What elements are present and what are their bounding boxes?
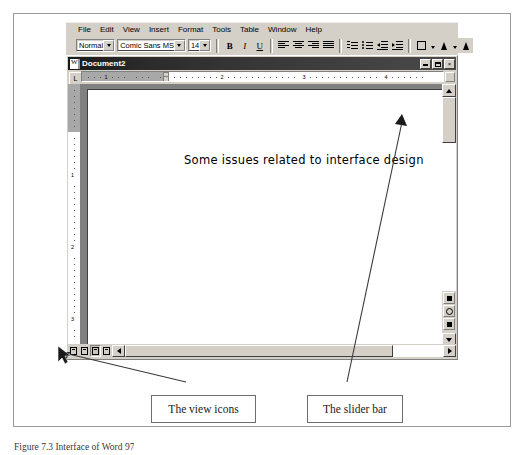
justify-button[interactable]: [321, 38, 336, 53]
ruler-scroll-button[interactable]: [445, 72, 455, 82]
document-title: Document2: [82, 59, 420, 68]
italic-button[interactable]: I: [237, 38, 252, 53]
ruler-strip[interactable]: 1 2: [81, 71, 444, 82]
callout-slider-bar: The slider bar: [307, 395, 403, 423]
scroll-left-button[interactable]: [112, 345, 125, 357]
callout-slider-bar-label: The slider bar: [323, 403, 387, 415]
online-layout-view-icon[interactable]: [79, 345, 90, 357]
double-down-arrow-icon: [447, 322, 452, 327]
horizontal-scrollbar-row: [68, 344, 456, 358]
document-work-area: Some issues related to interface design: [81, 84, 442, 346]
figure-frame: File Edit View Insert Format Tools Table…: [13, 13, 511, 427]
close-button[interactable]: ×: [444, 59, 455, 69]
justify-icon: [323, 41, 334, 50]
scroll-up-button[interactable]: [442, 84, 456, 97]
callout-view-icons: The view icons: [151, 395, 256, 423]
font-color-button[interactable]: [458, 38, 473, 53]
align-center-icon: [293, 41, 304, 50]
horizontal-scroll-thumb[interactable]: [125, 345, 393, 357]
document-page[interactable]: Some issues related to interface design: [87, 89, 442, 346]
font-combo-box[interactable]: Comic Sans MS: [117, 39, 186, 52]
word-document-icon: [70, 59, 80, 69]
ruler-number: 4: [384, 74, 387, 80]
menu-item-tools[interactable]: Tools: [212, 23, 236, 36]
borders-dropdown-arrow[interactable]: [429, 38, 436, 53]
horizontal-ruler[interactable]: L 1: [68, 70, 456, 84]
highlight-button[interactable]: [436, 38, 451, 53]
decrease-indent-icon: [377, 41, 388, 50]
bullets-button[interactable]: [360, 38, 375, 53]
toolbar-separator: [216, 39, 219, 53]
underline-button[interactable]: U: [252, 38, 267, 53]
chevron-down-icon[interactable]: [199, 40, 210, 51]
align-left-icon: [278, 41, 289, 50]
select-browse-object-button[interactable]: [443, 305, 455, 317]
menu-bar: File Edit View Insert Format Tools Table…: [66, 22, 458, 36]
menu-item-edit[interactable]: Edit: [100, 23, 119, 36]
menu-item-insert[interactable]: Insert: [149, 23, 174, 36]
previous-page-button[interactable]: [443, 292, 455, 304]
normal-view-icon[interactable]: [68, 345, 79, 357]
bulleted-list-icon: [362, 41, 373, 50]
scroll-right-button[interactable]: [443, 345, 456, 357]
minimize-button[interactable]: [420, 59, 431, 69]
document-body-text[interactable]: Some issues related to interface design: [184, 153, 424, 167]
font-color-icon: [463, 42, 469, 50]
tab-selector-icon[interactable]: L: [69, 72, 81, 84]
left-indent-marker[interactable]: [163, 76, 169, 82]
menu-item-window[interactable]: Window: [268, 23, 301, 36]
numbering-button[interactable]: [345, 38, 360, 53]
align-center-button[interactable]: [291, 38, 306, 53]
double-up-arrow-icon: [447, 296, 452, 301]
toolbar-separator: [339, 39, 342, 53]
word-application-window: File Edit View Insert Format Tools Table…: [66, 22, 458, 360]
vertical-ruler[interactable]: 1 2: [68, 84, 81, 346]
ruler-number: 1: [104, 74, 107, 80]
numbered-list-icon: [347, 41, 358, 50]
font-size-combo-box[interactable]: 14: [188, 39, 211, 52]
ruler-number: 3: [302, 74, 305, 80]
menu-item-help[interactable]: Help: [306, 23, 327, 36]
increase-indent-button[interactable]: [390, 38, 405, 53]
font-size-combo-value: 14: [189, 40, 199, 51]
font-combo-value: Comic Sans MS: [118, 40, 174, 51]
style-combo-value: Normal: [77, 40, 103, 51]
menu-item-format[interactable]: Format: [178, 23, 208, 36]
vertical-ruler-number: 3: [71, 316, 74, 322]
highlight-pen-icon: [441, 42, 447, 50]
style-combo-box[interactable]: Normal: [76, 39, 115, 52]
menu-item-table[interactable]: Table: [240, 23, 264, 36]
chevron-down-icon[interactable]: [103, 40, 114, 51]
vertical-ruler-number: 2: [71, 244, 74, 250]
highlight-dropdown-arrow[interactable]: [451, 38, 458, 53]
vertical-scrollbar[interactable]: [442, 84, 456, 346]
figure-caption: Figure 7.3 Interface of Word 97: [14, 442, 134, 455]
chevron-down-icon[interactable]: [174, 40, 185, 51]
align-left-button[interactable]: [276, 38, 291, 53]
formatting-toolbar: Normal Comic Sans MS 14 B I U: [66, 36, 458, 55]
outline-view-icon[interactable]: [101, 345, 112, 357]
next-page-button[interactable]: [443, 318, 455, 330]
browse-object-icon: [446, 308, 453, 315]
callout-view-icons-label: The view icons: [168, 403, 238, 415]
align-right-button[interactable]: [306, 38, 321, 53]
vertical-ruler-number: 1: [71, 172, 74, 178]
decrease-indent-button[interactable]: [375, 38, 390, 53]
toolbar-separator: [270, 39, 273, 53]
vertical-scroll-trough[interactable]: [442, 97, 456, 291]
bold-button[interactable]: B: [222, 38, 237, 53]
maximize-button[interactable]: [432, 59, 443, 69]
document-title-bar[interactable]: Document2 ×: [68, 57, 456, 70]
vertical-scroll-thumb[interactable]: [442, 97, 456, 143]
borders-button[interactable]: [414, 38, 429, 53]
toolbar-separator: [408, 39, 411, 53]
menu-item-view[interactable]: View: [123, 23, 145, 36]
menu-item-file[interactable]: File: [78, 23, 96, 36]
horizontal-scroll-trough[interactable]: [125, 345, 443, 357]
increase-indent-icon: [392, 41, 403, 50]
align-right-icon: [308, 41, 319, 50]
ruler-number: 2: [220, 74, 223, 80]
border-icon: [417, 41, 426, 50]
document-child-window: Document2 × L 1: [66, 55, 458, 360]
page-layout-view-icon[interactable]: [90, 345, 101, 357]
